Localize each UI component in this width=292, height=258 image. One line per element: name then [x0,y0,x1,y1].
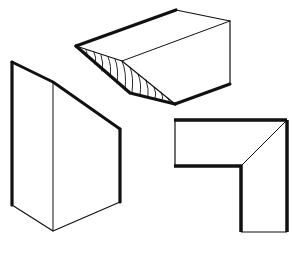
diagram-canvas [0,0,292,258]
corner-inner-edge [174,166,241,232]
wedge-top-edge-thick [76,10,176,46]
wedge-top-edge-thin [176,10,230,21]
wedge-prism [76,10,230,104]
mitred-corner [174,120,287,232]
diagram-svg [0,0,292,258]
wedge-ridge-line [122,21,230,61]
tall-prism [12,62,120,231]
wedge-hatching [86,50,169,103]
wedge-bottom-edge [175,84,230,104]
corner-mitre-line [241,120,287,166]
prism-bottom-edge [12,202,120,231]
